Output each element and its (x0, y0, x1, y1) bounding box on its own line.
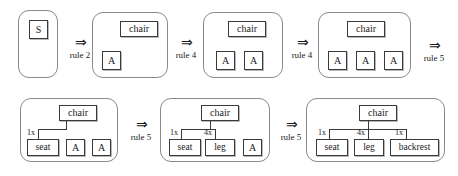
transition-arrow-3: ⇒ rule 4 (282, 37, 322, 61)
edge-multiplicity-seat: 1x (318, 128, 326, 137)
tree-root-box-chair: chair (201, 105, 239, 121)
tree-edge-vertical-seat (329, 129, 330, 139)
double-arrow-icon: ⇒ (271, 119, 311, 131)
symbol-box-a-1: A (66, 139, 85, 156)
transition-rule-label: rule 4 (166, 50, 206, 61)
edge-multiplicity-seat: 1x (27, 128, 35, 137)
symbol-label: backrest (399, 143, 431, 153)
symbol-label: leg (363, 143, 375, 153)
derivation-step-7-panel: chair 1x 4x 1x seat leg backrest (306, 98, 445, 162)
symbol-box-chair: chair (120, 21, 158, 37)
edge-multiplicity-leg: 4x (357, 128, 365, 137)
symbol-label: A (222, 56, 229, 66)
tree-edge-vertical-seat (181, 129, 182, 139)
tree-leaf-box-seat: seat (169, 139, 201, 156)
derivation-step-1-panel: S (18, 10, 58, 78)
transition-arrow-6: ⇒ rule 5 (271, 119, 311, 143)
double-arrow-icon: ⇒ (414, 40, 454, 52)
tree-leaf-box-leg: leg (354, 139, 384, 156)
symbol-label: A (334, 56, 341, 66)
symbol-box-a-1: A (328, 51, 347, 70)
double-arrow-icon: ⇒ (282, 37, 322, 49)
symbol-label: A (362, 56, 369, 66)
symbol-box-s: S (29, 20, 48, 39)
transition-arrow-2: ⇒ rule 4 (166, 37, 206, 61)
symbol-box-chair: chair (228, 21, 266, 37)
tree-leaf-box-seat: seat (316, 139, 348, 156)
double-arrow-icon: ⇒ (121, 119, 161, 131)
transition-rule-label: rule 4 (282, 50, 322, 61)
transition-rule-label: rule 5 (414, 53, 454, 64)
symbol-box-chair: chair (347, 21, 385, 37)
tree-root-box-chair: chair (59, 105, 97, 121)
symbol-box-a-3: A (384, 51, 403, 70)
tree-edge-vertical-root (66, 121, 67, 129)
symbol-label: A (250, 56, 257, 66)
symbol-label: leg (214, 143, 226, 153)
transition-rule-label: rule 5 (121, 132, 161, 143)
symbol-label: chair (68, 108, 88, 118)
tree-edge-vertical-root (368, 121, 369, 129)
symbol-label: seat (325, 143, 340, 153)
symbol-label: chair (129, 24, 149, 34)
tree-root-box-chair: chair (359, 105, 397, 121)
edge-multiplicity-backrest: 1x (395, 128, 403, 137)
tree-edge-vertical-backrest (406, 129, 407, 139)
symbol-label: A (98, 143, 105, 153)
symbol-box-a-2: A (244, 51, 263, 70)
symbol-label: chair (237, 24, 257, 34)
transition-arrow-4: ⇒ rule 5 (414, 40, 454, 64)
double-arrow-icon: ⇒ (166, 37, 206, 49)
symbol-label: A (72, 143, 79, 153)
edge-multiplicity-seat: 1x (170, 128, 178, 137)
edge-multiplicity-leg: 4x (204, 128, 212, 137)
tree-leaf-box-leg: leg (205, 139, 235, 156)
tree-edge-vertical-leg (215, 129, 216, 139)
derivation-step-4-panel: chair A A A (318, 12, 411, 78)
symbol-label: chair (368, 108, 388, 118)
symbol-label: A (249, 143, 256, 153)
symbol-label: seat (178, 143, 193, 153)
tree-leaf-box-backrest: backrest (390, 139, 439, 156)
symbol-label: A (108, 56, 115, 66)
tree-edge-vertical-seat (38, 129, 39, 139)
tree-leaf-box-seat: seat (27, 139, 59, 156)
derivation-step-2-panel: chair A (92, 12, 168, 78)
derivation-diagram: S ⇒ rule 2 chair A ⇒ rule 4 chair A A ⇒ … (0, 0, 458, 176)
derivation-step-5-panel: chair 1x seat A A (20, 98, 118, 162)
symbol-box-a-2: A (356, 51, 375, 70)
transition-rule-label: rule 5 (271, 132, 311, 143)
symbol-box-a-1: A (102, 51, 121, 70)
symbol-label: S (36, 25, 42, 35)
symbol-label: seat (36, 143, 51, 153)
derivation-step-3-panel: chair A A (203, 12, 283, 78)
symbol-box-a-2: A (92, 139, 111, 156)
tree-edge-horizontal (38, 129, 67, 130)
symbol-label: chair (356, 24, 376, 34)
symbol-box-a-1: A (216, 51, 235, 70)
transition-arrow-5: ⇒ rule 5 (121, 119, 161, 143)
derivation-step-6-panel: chair 1x 4x seat leg A (160, 98, 270, 162)
symbol-label: A (390, 56, 397, 66)
symbol-label: chair (210, 108, 230, 118)
symbol-box-a-1: A (243, 139, 262, 156)
tree-edge-vertical-leg (368, 129, 369, 139)
